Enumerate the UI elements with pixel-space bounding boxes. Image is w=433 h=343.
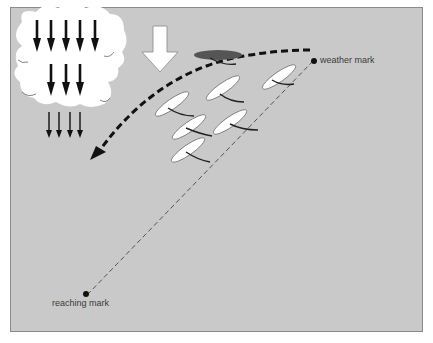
wind-arrow-icon [142, 26, 178, 72]
boat-icon [204, 72, 244, 103]
storm-cloud-icon [14, 4, 126, 107]
boats [153, 50, 299, 166]
diagram-canvas [0, 0, 433, 343]
boat-icon [260, 61, 299, 92]
weather-mark-label: weather mark [320, 55, 375, 65]
course-arrowhead-icon [90, 146, 106, 160]
rhumb-line [88, 61, 313, 294]
reaching-mark-dot [83, 291, 89, 297]
boat-icon [153, 88, 194, 119]
lead-boat-icon [194, 50, 242, 64]
weather-mark-dot [311, 58, 317, 64]
reaching-mark-label: reaching mark [52, 298, 109, 308]
boat-icon [211, 106, 258, 137]
